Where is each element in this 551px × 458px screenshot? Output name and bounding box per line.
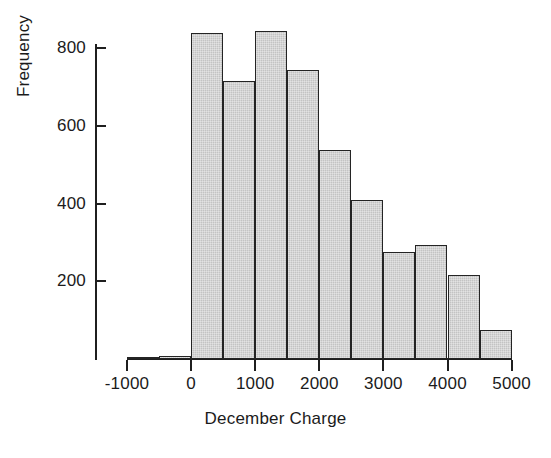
histogram-bar — [191, 33, 223, 359]
x-axis-tick — [318, 360, 320, 371]
y-axis-title: Frequency — [14, 0, 40, 146]
x-axis-tick — [382, 360, 384, 371]
plot-area: 200400600800 -1000010002000300040005000 — [0, 0, 551, 458]
x-axis-title: December Charge — [0, 409, 551, 429]
x-axis-tick — [190, 360, 192, 371]
y-axis-tick-label: 200 — [24, 271, 86, 291]
x-axis-tick — [447, 360, 449, 371]
y-axis-tick-label: 400 — [24, 194, 86, 214]
histogram-bar — [383, 252, 415, 359]
histogram-bar — [448, 275, 480, 359]
histogram-bar — [480, 330, 512, 359]
y-axis-tick — [95, 125, 106, 127]
x-axis-tick — [254, 360, 256, 371]
histogram-bar — [287, 70, 319, 359]
histogram-bar — [255, 31, 287, 359]
x-axis-tick — [511, 360, 513, 371]
histogram-figure: 200400600800 -1000010002000300040005000 … — [0, 0, 551, 458]
y-axis-tick — [95, 203, 106, 205]
y-axis-tick — [95, 47, 106, 49]
x-axis-tick-label: 5000 — [467, 374, 551, 394]
y-axis-tick — [95, 280, 106, 282]
histogram-bar — [415, 245, 447, 359]
histogram-bar — [351, 200, 383, 359]
histogram-bar — [223, 81, 255, 359]
histogram-bar — [159, 356, 191, 359]
histogram-bar — [319, 150, 351, 359]
histogram-bar — [127, 357, 159, 359]
x-axis-tick — [126, 360, 128, 371]
